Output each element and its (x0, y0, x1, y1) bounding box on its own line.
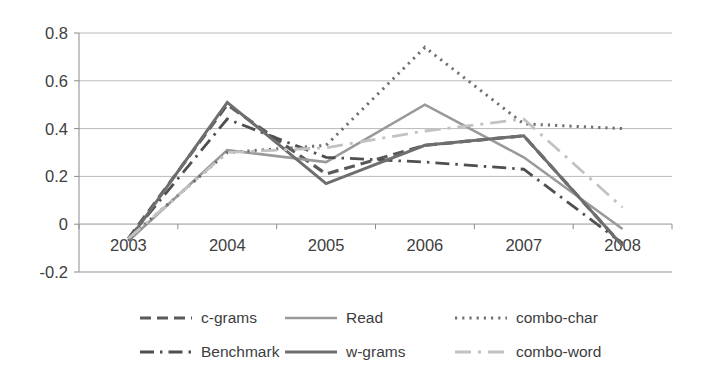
y-tick-label: 0.8 (45, 24, 68, 42)
legend-label-w-grams: w-grams (345, 343, 406, 360)
y-tick-label: 0 (59, 215, 68, 233)
legend-label-c-grams: c-grams (201, 309, 257, 326)
legend-label-read: Read (346, 309, 383, 326)
x-tick-marks (79, 224, 672, 229)
x-tick-label: 2005 (308, 236, 345, 254)
data-series-group (128, 47, 622, 245)
x-axis-tick-labels: 200320042005200620072008 (110, 236, 641, 254)
y-tick-label: 0.6 (45, 72, 68, 90)
y-tick-marks (74, 33, 79, 272)
legend-label-combo-char: combo-char (516, 309, 598, 326)
y-axis-tick-labels: 0.80.60.40.20-0.2 (40, 24, 68, 281)
y-tick-label: -0.2 (40, 263, 68, 281)
legend-label-benchmark: Benchmark (201, 343, 280, 360)
chart-canvas: 0.80.60.40.20-0.2 2003200420052006200720… (0, 0, 704, 379)
x-tick-label: 2007 (505, 236, 542, 254)
x-tick-label: 2006 (407, 236, 444, 254)
legend-label-combo-word: combo-word (516, 343, 601, 360)
y-tick-label: 0.4 (45, 120, 68, 138)
y-tick-label: 0.2 (45, 167, 68, 185)
grid-lines (79, 33, 672, 272)
chart-legend: c-gramsReadcombo-charBenchmarkw-gramscom… (140, 309, 601, 360)
x-tick-label: 2004 (209, 236, 246, 254)
line-chart: 0.80.60.40.20-0.2 2003200420052006200720… (0, 0, 704, 379)
